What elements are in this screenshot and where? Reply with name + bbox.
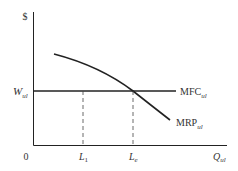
mrp-label: MRPul [176,117,203,131]
l1-label: L1 [78,151,89,164]
origin-label: 0 [24,151,29,162]
wage-label: Wul [13,85,28,100]
y-axis-label: $ [23,11,28,22]
mrp-curve [54,54,170,120]
mfc-label: MFCul [180,86,207,100]
x-axis-label: Qul [213,151,226,164]
wage-labor-diagram: $ 0 Wul MFCul MRPul L1 Le Qul [0,0,238,171]
le-label: Le [128,151,138,164]
